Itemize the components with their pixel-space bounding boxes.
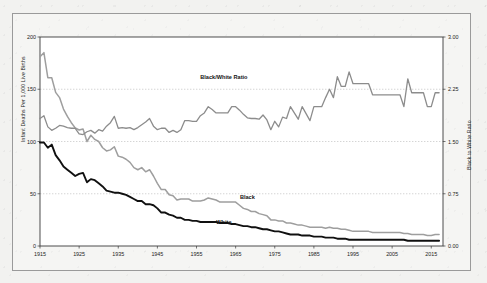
chart-figure: Infant Deaths Per 1,000 Live Births Blac… xyxy=(0,0,487,283)
chart-page: Infant Deaths Per 1,000 Live Births Blac… xyxy=(0,0,487,283)
series-label-black-white-ratio: Black/White Ratio xyxy=(200,74,247,80)
chart-canvas xyxy=(0,0,487,283)
series-label-white: White xyxy=(216,219,231,225)
series-label-black: Black xyxy=(240,194,255,200)
